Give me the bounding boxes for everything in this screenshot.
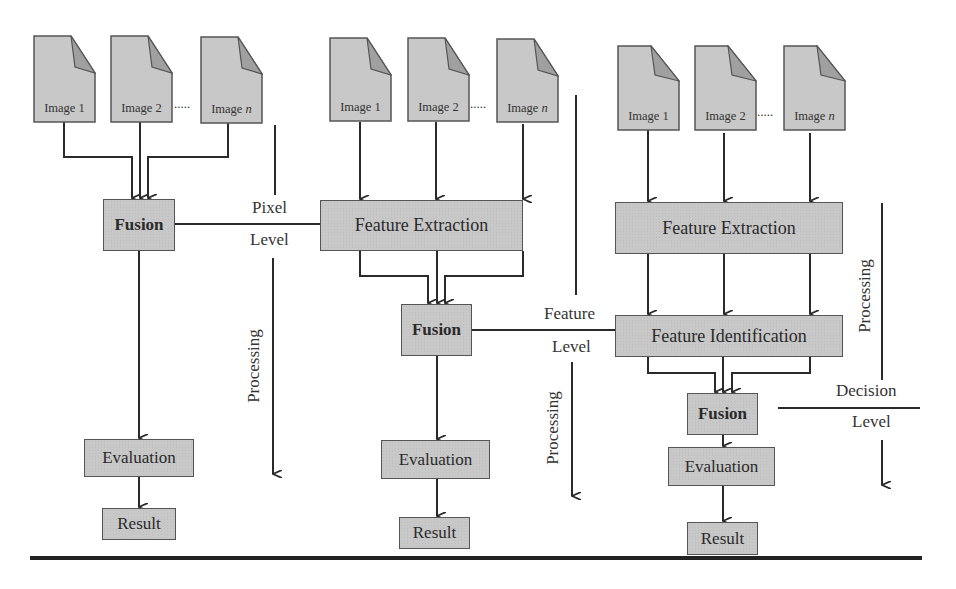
image-doc-n-col3: Image n [783, 45, 846, 133]
fusion-box-feature: Fusion [401, 304, 472, 356]
result-box-pixel: Result [102, 508, 176, 540]
pixel-level-label-top: Pixel [252, 198, 287, 218]
decision-level-label-bottom: Level [852, 412, 891, 432]
image-label: Image n [496, 101, 559, 116]
image-label: Image 1 [33, 101, 96, 116]
evaluation-box-feature: Evaluation [381, 440, 490, 479]
image-label: Image 2 [110, 101, 173, 116]
image-label: Image n [200, 102, 263, 117]
ellipsis: ..... [174, 96, 190, 112]
result-box-decision: Result [687, 522, 758, 555]
feature-processing-label: Processing [543, 386, 563, 470]
evaluation-box-pixel: Evaluation [84, 439, 194, 477]
ellipsis: ..... [470, 96, 486, 112]
result-box-feature: Result [399, 517, 470, 549]
pixel-processing-label: Processing [244, 324, 264, 408]
bottom-divider [30, 556, 922, 560]
image-doc-n-col1: Image n [200, 36, 263, 124]
image-label: Image 2 [407, 100, 470, 115]
image-doc-1-col3: Image 1 [617, 45, 680, 133]
image-doc-1-col2: Image 1 [329, 37, 392, 125]
feature-extraction-box-decision: Feature Extraction [615, 202, 843, 254]
image-label: Image 1 [329, 100, 392, 115]
feature-extraction-box-feature: Feature Extraction [320, 200, 523, 251]
image-label: Image n [783, 109, 846, 124]
image-label: Image 1 [617, 109, 680, 124]
image-doc-1-col1: Image 1 [33, 35, 96, 123]
image-doc-2-col1: Image 2 [110, 35, 173, 123]
fusion-box-decision: Fusion [687, 393, 758, 435]
evaluation-box-decision: Evaluation [668, 447, 775, 486]
feature-level-label-bottom: Level [552, 337, 591, 357]
decision-processing-label: Processing [855, 254, 875, 338]
decision-level-label-top: Decision [836, 381, 896, 401]
pixel-level-label-bottom: Level [250, 230, 289, 250]
feature-level-label-top: Feature [544, 304, 595, 324]
ellipsis: ..... [757, 104, 773, 120]
fusion-box-pixel: Fusion [103, 199, 175, 251]
image-doc-n-col2: Image n [496, 38, 559, 126]
feature-identification-box-decision: Feature Identification [615, 315, 843, 357]
image-doc-2-col3: Image 2 [694, 45, 757, 133]
image-label: Image 2 [694, 109, 757, 124]
image-doc-2-col2: Image 2 [407, 37, 470, 125]
